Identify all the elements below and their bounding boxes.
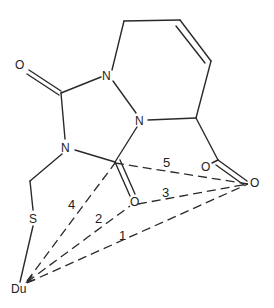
atom-o-carboxyl-left: O (201, 160, 210, 174)
bonds (20, 20, 247, 282)
distance-lines (27, 163, 248, 283)
atom-o-carbonyl-top: O (15, 58, 24, 72)
atom-n-left: N (61, 141, 70, 155)
distance-label-3: 3 (162, 185, 169, 200)
chemical-structure-diagram: O N N N S Du O O O 1 2 3 4 5 (0, 0, 274, 308)
atom-du: Du (11, 282, 26, 296)
atom-o-carbonyl-mid: O (130, 195, 139, 209)
atom-o-carboxyl-right: O (250, 176, 259, 190)
distance-labels: 1 2 3 4 5 (68, 155, 170, 243)
distance-label-2: 2 (95, 211, 102, 226)
distance-line-2 (27, 206, 130, 282)
distance-label-4: 4 (68, 197, 75, 212)
atom-s: S (29, 212, 37, 226)
distance-label-5: 5 (163, 155, 170, 170)
atom-n-upper: N (102, 69, 111, 83)
atom-labels: O N N N S Du O O O (11, 58, 259, 296)
distance-label-1: 1 (119, 228, 126, 243)
distance-line-3 (138, 184, 248, 204)
atom-n-lower: N (135, 114, 144, 128)
